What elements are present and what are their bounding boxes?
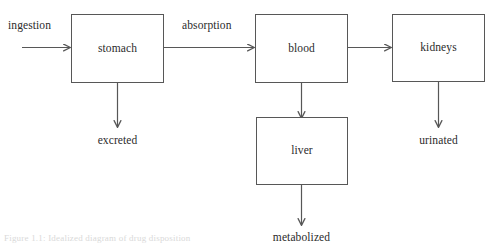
node-blood-label: blood (288, 43, 315, 55)
node-stomach: stomach (71, 14, 164, 83)
node-kidneys-label: kidneys (420, 42, 456, 54)
node-liver: liver (256, 117, 348, 185)
edge-label-absorption: absorption (182, 20, 232, 32)
node-liver-label: liver (291, 145, 313, 157)
node-blood: blood (255, 14, 348, 83)
terminal-label-metabolized: metabolized (252, 232, 352, 244)
node-kidneys: kidneys (392, 14, 485, 82)
edge-label-ingestion: ingestion (8, 20, 51, 32)
terminal-label-excreted: excreted (68, 135, 168, 147)
terminal-label-urinated: urinated (389, 135, 489, 147)
figure-caption: Figure 1.1: Idealized diagram of drug di… (4, 234, 191, 244)
drug-disposition-diagram: stomach blood kidneys liver ingestion ab… (0, 0, 496, 245)
node-stomach-label: stomach (98, 43, 137, 55)
